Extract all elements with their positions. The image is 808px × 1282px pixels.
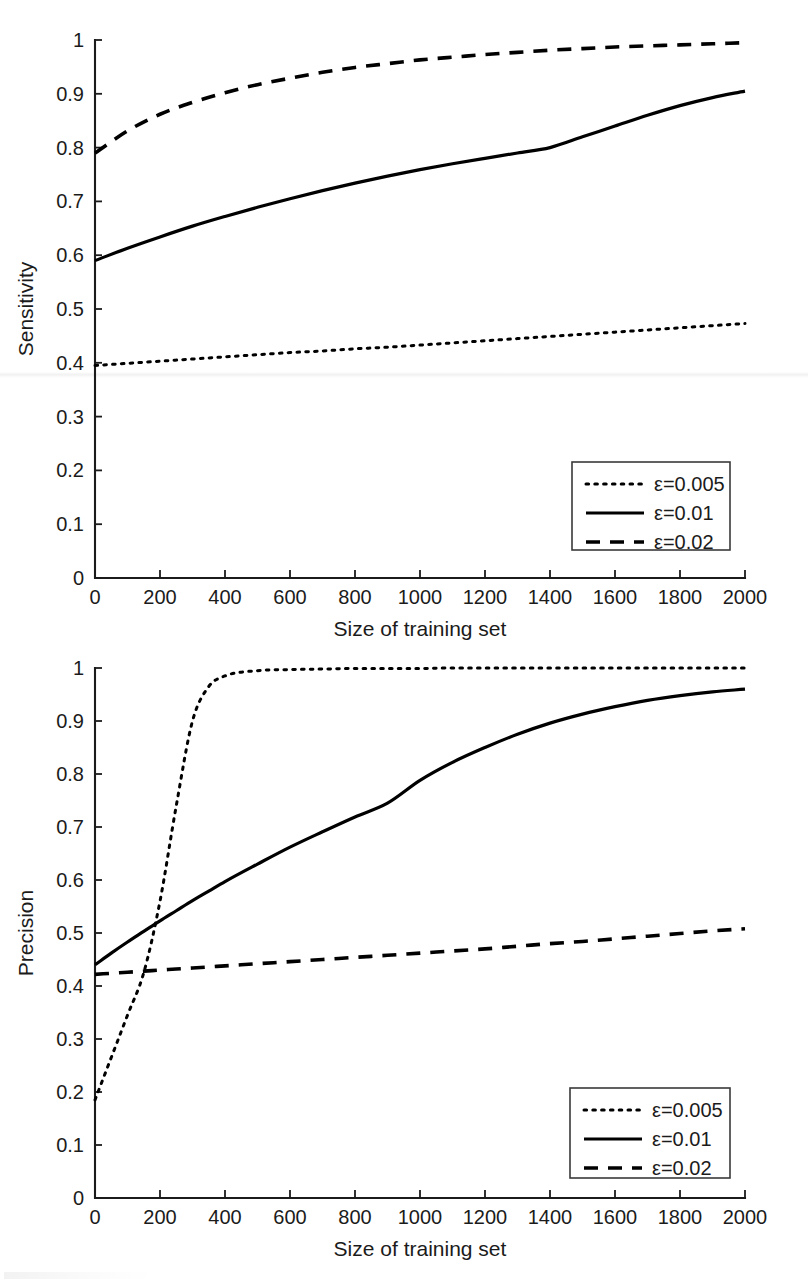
x-tick-label: 600 — [273, 1206, 306, 1228]
x-tick-label: 1600 — [593, 586, 638, 608]
x-tick-label: 1800 — [658, 586, 703, 608]
y-tick-label: 0.2 — [56, 1081, 84, 1103]
x-tick-label: 800 — [338, 1206, 371, 1228]
series-line-dotted — [95, 668, 745, 1100]
y-tick-label: 0.6 — [56, 869, 84, 891]
y-tick-label: 0.3 — [56, 1028, 84, 1050]
y-tick-label: 0 — [73, 1187, 84, 1209]
y-tick-label: 0.7 — [56, 190, 84, 212]
y-tick-label: 0.6 — [56, 244, 84, 266]
precision-plot: 00.10.20.30.40.50.60.70.80.9102004006008… — [0, 645, 808, 1282]
y-tick-label: 0.4 — [56, 975, 84, 997]
series-line-dotted — [95, 324, 745, 366]
x-tick-label: 2000 — [723, 586, 768, 608]
y-tick-label: 0.9 — [56, 710, 84, 732]
x-axis-title: Size of training set — [334, 1237, 507, 1260]
y-tick-label: 0.7 — [56, 816, 84, 838]
legend[interactable]: ε=0.005ε=0.01ε=0.02 — [572, 462, 730, 553]
x-tick-label: 1800 — [658, 1206, 703, 1228]
x-tick-label: 200 — [143, 586, 176, 608]
y-tick-label: 0.8 — [56, 763, 84, 785]
x-tick-label: 1400 — [528, 1206, 573, 1228]
sensitivity-plot: 00.10.20.30.40.50.60.70.80.9102004006008… — [0, 0, 808, 645]
series-line-dashed — [95, 43, 745, 153]
x-axis-title: Size of training set — [334, 617, 507, 640]
x-tick-label: 200 — [143, 1206, 176, 1228]
x-tick-label: 1000 — [398, 1206, 443, 1228]
legend[interactable]: ε=0.005ε=0.01ε=0.02 — [570, 1088, 730, 1179]
x-tick-label: 1200 — [463, 586, 508, 608]
x-tick-label: 0 — [89, 586, 100, 608]
y-tick-label: 0.2 — [56, 459, 84, 481]
y-tick-label: 0.8 — [56, 137, 84, 159]
y-tick-label: 0 — [73, 567, 84, 589]
y-tick-label: 0.4 — [56, 352, 84, 374]
y-tick-label: 0.1 — [56, 513, 84, 535]
legend-entry-label: ε=0.005 — [652, 1099, 723, 1121]
y-tick-label: 0.9 — [56, 83, 84, 105]
x-tick-label: 800 — [338, 586, 371, 608]
x-tick-label: 1400 — [528, 586, 573, 608]
legend-entry-label: ε=0.01 — [652, 1128, 712, 1150]
precision-chart-panel: 00.10.20.30.40.50.60.70.80.9102004006008… — [0, 645, 808, 1282]
y-axis-title: Sensitivity — [14, 261, 37, 356]
legend-entry-label: ε=0.005 — [654, 473, 725, 495]
x-tick-label: 1200 — [463, 1206, 508, 1228]
legend-entry-label: ε=0.02 — [654, 531, 714, 553]
sensitivity-chart-panel: 00.10.20.30.40.50.60.70.80.9102004006008… — [0, 0, 808, 645]
x-tick-label: 1600 — [593, 1206, 638, 1228]
y-axis-title: Precision — [14, 890, 37, 976]
y-tick-label: 1 — [73, 657, 84, 679]
y-tick-label: 1 — [73, 29, 84, 51]
series-line-solid — [95, 689, 745, 965]
x-tick-label: 2000 — [723, 1206, 768, 1228]
y-tick-label: 0.1 — [56, 1134, 84, 1156]
legend-entry-label: ε=0.01 — [654, 502, 714, 524]
y-tick-label: 0.5 — [56, 922, 84, 944]
x-tick-label: 600 — [273, 586, 306, 608]
legend-entry-label: ε=0.02 — [652, 1157, 712, 1179]
x-tick-label: 400 — [208, 586, 241, 608]
x-tick-label: 0 — [89, 1206, 100, 1228]
series-line-dashed — [95, 929, 745, 975]
y-tick-label: 0.3 — [56, 406, 84, 428]
y-tick-label: 0.5 — [56, 298, 84, 320]
x-tick-label: 400 — [208, 1206, 241, 1228]
series-line-solid — [95, 91, 745, 260]
x-tick-label: 1000 — [398, 586, 443, 608]
